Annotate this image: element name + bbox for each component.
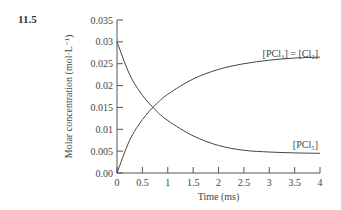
x-tick-label: 0.5	[136, 177, 149, 188]
x-tick-label: 3.5	[288, 177, 301, 188]
y-tick-label: 0.02	[96, 80, 114, 91]
y-axis-title: Molar concentration (mol·L⁻¹)	[63, 35, 75, 159]
y-tick-label: 0.025	[91, 58, 114, 69]
x-tick-label: 0	[115, 177, 120, 188]
line-chart: 0.000.0050.010.0150.020.0250.030.03500.5…	[0, 0, 341, 210]
x-tick-label: 4	[318, 177, 323, 188]
y-tick-label: 0.005	[91, 146, 114, 157]
y-tick-label: 0.00	[96, 168, 114, 179]
x-tick-label: 1	[165, 177, 170, 188]
y-tick-label: 0.035	[91, 15, 114, 26]
series-label-pcl5: [PCl₅]	[293, 139, 318, 150]
x-tick-label: 1.5	[187, 177, 200, 188]
x-tick-label: 2.5	[238, 177, 251, 188]
y-tick-label: 0.015	[91, 102, 114, 113]
x-tick-label: 2	[216, 177, 221, 188]
y-tick-label: 0.01	[96, 124, 114, 135]
x-tick-label: 3	[267, 177, 272, 188]
y-tick-label: 0.03	[96, 36, 114, 47]
series-label-pcl3: [PCl₃] = [Cl₂]	[263, 48, 318, 59]
series-line-pcl3	[117, 57, 320, 173]
x-axis-title: Time (ms)	[198, 191, 240, 203]
